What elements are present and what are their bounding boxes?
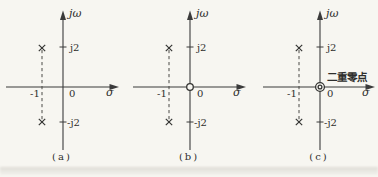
lower-tick-label: -j2 [194,117,207,128]
vertical-axis-label: jω [66,7,81,20]
vertical-axis-label: jω [193,7,208,20]
origin-label: 0 [69,88,75,99]
real-tick-label: -1 [30,88,40,99]
panel-caption: (a) [52,151,72,162]
zero-circle-icon [187,84,194,91]
upper-tick-label: j2 [69,42,79,53]
textbook-figure-page: jω j2 -j2 -1 0 σ (a) j [0,0,378,177]
vertical-axis-arrow-icon [317,11,323,21]
panel-a: jω j2 -j2 -1 0 σ (a) [6,7,119,162]
pole-zero-figure-canvas: jω j2 -j2 -1 0 σ (a) j [0,0,378,177]
horizontal-axis-label: σ [362,86,370,99]
lower-tick-label: -j2 [324,117,337,128]
vertical-axis-arrow-icon [60,11,66,21]
double-zero-marker [316,83,325,92]
panel-caption: (b) [179,151,199,162]
real-tick-label: -1 [287,88,297,99]
pole-marker-lower [166,119,172,125]
panel-b: jω j2 -j2 -1 0 σ (b) [133,7,246,162]
horizontal-axis-label: σ [233,86,241,99]
vertical-axis-arrow-icon [187,11,193,21]
pole-marker-lower [296,119,302,125]
real-tick-label: -1 [157,88,167,99]
upper-tick-label: j2 [326,42,336,53]
origin-label: 0 [197,88,203,99]
origin-label: 0 [327,88,333,99]
zero-outer-circle-icon [316,83,325,92]
panel-c: jω j2 -j2 -1 0 σ 二重零点 (c) [263,7,375,162]
double-zero-annotation: 二重零点 [327,71,368,83]
lower-tick-label: -j2 [67,117,80,128]
panel-caption: (c) [309,151,328,162]
horizontal-axis-label: σ [106,86,114,99]
vertical-axis-label: jω [323,7,338,20]
upper-tick-label: j2 [196,42,206,53]
pole-marker-lower [39,119,45,125]
